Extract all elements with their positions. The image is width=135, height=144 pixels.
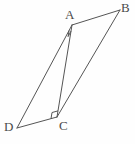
vertex-label-a: A <box>65 8 74 21</box>
geometry-figure: A B C D <box>0 0 135 144</box>
vertex-label-c: C <box>59 119 68 132</box>
vertex-label-b: B <box>121 1 130 14</box>
vertex-label-d: D <box>4 120 13 133</box>
segment-cd <box>17 117 57 128</box>
segment-bc <box>57 10 120 117</box>
